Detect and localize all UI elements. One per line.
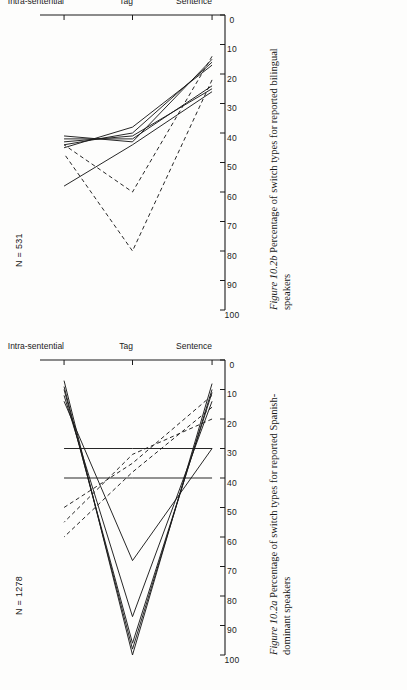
value-tick-label: 70 <box>227 222 237 232</box>
series-line <box>64 56 212 192</box>
value-tick-label: 70 <box>227 567 237 577</box>
value-tick-label: 30 <box>227 104 237 114</box>
plot-area-b <box>40 15 225 310</box>
value-tick-label: 20 <box>227 74 237 84</box>
category-axis-ticks-b <box>64 15 212 20</box>
category-tick-label: Sentence <box>176 341 212 351</box>
value-tick-label: 20 <box>227 419 237 429</box>
value-tick-labels-a <box>0 345 40 690</box>
category-tick-label: Sentence <box>176 0 212 6</box>
value-tick-label: 50 <box>227 163 237 173</box>
category-tick-label: Intra-sentential <box>8 341 64 351</box>
chart-series-group-a <box>64 381 212 655</box>
value-tick-label: 10 <box>227 45 237 55</box>
value-tick-label: 60 <box>227 192 237 202</box>
figure-10-2a: N = 1278 SentenceTagIntra-sentential Fig… <box>0 345 407 690</box>
line-chart-b <box>40 15 225 310</box>
caption-figure-10-2b: Figure 10.2b Percentage of switch types … <box>268 10 294 310</box>
value-tick-labels-b <box>0 0 40 345</box>
value-axis-ticks-b <box>220 15 225 310</box>
figure-10-2b: N = 531 SentenceTagIntra-sentential Figu… <box>0 0 407 345</box>
value-tick-label: 90 <box>227 281 237 291</box>
caption-number-b: Figure 10.2b <box>268 256 279 310</box>
category-tick-label: Intra-sentential <box>8 0 64 6</box>
value-tick-label: 100 <box>225 655 240 665</box>
value-tick-label: 0 <box>230 360 235 370</box>
series-line <box>64 390 212 644</box>
value-tick-label: 0 <box>230 15 235 25</box>
series-line <box>64 381 212 655</box>
value-tick-label: 30 <box>227 449 237 459</box>
category-axis-ticks-a <box>64 360 212 365</box>
caption-number-a: Figure 10.2a <box>268 601 279 655</box>
plot-area-a <box>40 360 225 655</box>
value-tick-label: 50 <box>227 508 237 518</box>
series-line <box>64 89 212 142</box>
value-tick-label: 40 <box>227 133 237 143</box>
line-chart-a <box>40 360 225 655</box>
series-line <box>64 80 212 251</box>
value-tick-label: 100 <box>225 310 240 320</box>
value-tick-label: 10 <box>227 390 237 400</box>
value-axis-ticks-a <box>220 360 225 655</box>
category-tick-label: Tag <box>119 341 133 351</box>
category-tick-label: Tag <box>119 0 133 6</box>
value-tick-label: 40 <box>227 478 237 488</box>
value-tick-label: 80 <box>227 251 237 261</box>
value-tick-label: 80 <box>227 596 237 606</box>
value-tick-label: 90 <box>227 626 237 636</box>
chart-series-group-b <box>64 56 212 251</box>
series-line <box>64 387 212 650</box>
value-tick-label: 60 <box>227 537 237 547</box>
caption-figure-10-2a: Figure 10.2a Percentage of switch types … <box>268 355 294 655</box>
scanned-page: N = 531 SentenceTagIntra-sentential Figu… <box>0 0 407 690</box>
